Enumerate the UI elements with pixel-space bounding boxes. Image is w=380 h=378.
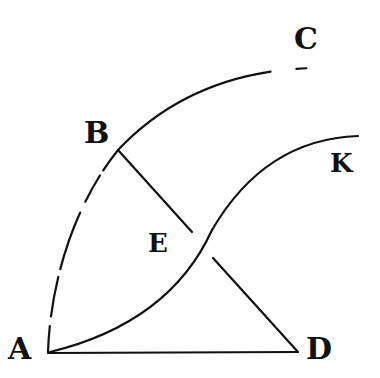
segment-e-d	[213, 258, 298, 352]
label-c: C	[294, 24, 318, 54]
diagram-svg	[0, 0, 380, 378]
label-e: E	[148, 230, 168, 256]
label-a: A	[8, 334, 31, 364]
label-b: B	[84, 118, 109, 148]
label-k: K	[330, 150, 353, 176]
arc-a-b-c	[48, 68, 320, 352]
diagram-canvas: A B C D E K	[0, 0, 380, 378]
label-d: D	[306, 334, 332, 364]
segment-b-e	[118, 150, 192, 232]
segment-a-d	[48, 352, 298, 353]
arc-a-e-k	[50, 136, 358, 352]
